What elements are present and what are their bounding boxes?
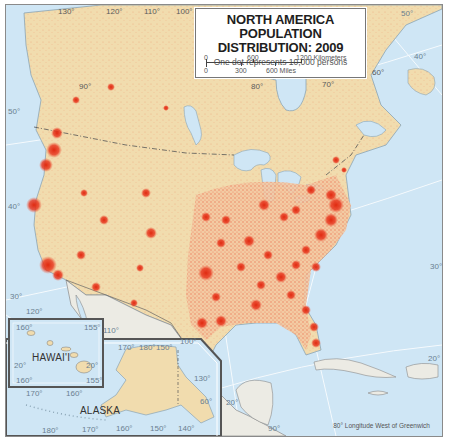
hawaii-lat-label: 20° [14,362,26,370]
lon-label: 110° [144,8,160,16]
scale-mi-300: 300 [235,67,247,74]
hawaii-lon-label: 160° [16,324,33,332]
lon-label: 110° [103,327,119,335]
alaska-lat-label: 60° [200,398,212,406]
lon-label: 120° [26,308,43,316]
scale-tick [301,59,302,63]
lat-label: 30° [430,263,442,271]
alaska-lon-label: 160° [116,425,133,433]
lon-label: 60° [372,69,384,77]
scale-tick [206,59,207,67]
map-frame: 130° 120° 110° 100° 90° 80° 70° 60° 50° … [5,4,443,437]
lon-label: 90° [79,83,91,91]
scale-line [206,62,302,63]
lon-label: 120° [106,8,123,16]
scale-tick [275,62,276,66]
lat-label: 20° [428,355,440,363]
lon-label: 100° [180,338,197,346]
longitude-note: 80° Longitude West of Greenwich [333,422,430,429]
hawaii-lon-label: 155° [84,324,101,332]
lat-label: 20° [226,399,238,407]
alaska-lon-label: 130° [194,375,211,383]
scale-tick [253,59,254,63]
map-title-box: NORTH AMERICA POPULATION DISTRIBUTION: 2… [195,8,366,78]
hawaii-lon-label: 155° [86,377,103,385]
scale-km-1200: 1200 Kilometers [296,54,347,61]
hawaii-label: HAWAI'I [32,352,70,363]
scale-tick [241,62,242,66]
alaska-lon-label: 180° [139,344,156,352]
lat-label: 50° [8,108,20,116]
alaska-lon-label: 150° [150,425,167,433]
alaska-lon-label: 170° [82,426,99,434]
lat-label: 40° [8,203,20,211]
map-title-line1: NORTH AMERICA [196,13,365,27]
lon-label: 80° [251,83,263,91]
hawaii-lon-label: 160° [16,377,33,385]
map-title-line2: POPULATION DISTRIBUTION: 2009 [196,27,365,55]
lat-label: 30° [10,293,22,301]
alaska-lon-label: 160° [66,390,83,398]
alaska-lon-label: 170° [26,390,43,398]
lat-label: 40° [414,53,426,61]
hispaniola [406,363,438,379]
scale-mi-0: 0 [204,67,208,74]
lon-label: 130° [58,8,75,16]
alaska-lon-label: 180° [42,427,59,435]
lon-label: 70° [322,81,334,89]
alaska-lon-label: 170° [118,344,135,352]
scale-bar: 0 600 1200 Kilometers 0 300 600 Miles [204,54,364,76]
scale-mi-600: 600 Miles [266,67,296,74]
alaska-label: ALASKA [80,405,120,416]
lon-label: 100° [176,8,193,16]
lat-label: 50° [401,10,413,18]
lon-label: 90° [268,425,280,433]
alaska-lon-label: 140° [178,425,195,433]
alaska-lon-label: 150° [156,344,173,352]
hawaii-lat-label: 20° [86,362,98,370]
